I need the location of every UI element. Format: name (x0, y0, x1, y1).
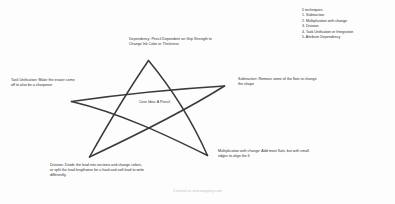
label-task-unification: Task Unification: Make the eraser come o… (11, 78, 75, 88)
label-subtraction: Subtraction: Remove some of the flats to… (238, 77, 318, 87)
technique-item-5: 5. Attribute Dependency (302, 35, 353, 40)
label-dependency: Dependency: Pencil Dependent on Grip Str… (129, 37, 215, 47)
label-division: Division: Divide the lead into sections … (50, 163, 146, 179)
star-edge-bottom-right-to-left (72, 102, 208, 156)
techniques-list: 5 techniques: 1. Subtraction 2. Multipli… (302, 8, 353, 40)
label-core-idea: Core Idea: A Pencil (139, 100, 189, 105)
diagram-canvas: 5 techniques: 1. Subtraction 2. Multipli… (0, 0, 395, 204)
label-multiplication: Multiplication with change: Add more fla… (218, 149, 310, 159)
watermark: Created on wisemapping.com (0, 189, 395, 193)
